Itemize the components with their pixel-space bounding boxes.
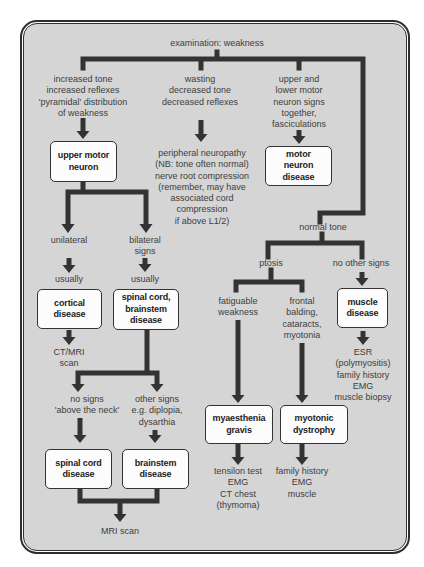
box-brainstem-disease: brainstem disease	[122, 449, 189, 489]
connector-ptosis-split	[236, 270, 302, 290]
arrow-icon	[72, 384, 85, 392]
arrow-icon	[139, 258, 152, 272]
unilateral-label: unilateral	[29, 235, 109, 246]
connector-normal-tone-split	[268, 234, 362, 257]
arrow-icon	[62, 224, 75, 233]
box-upper-motor-neuron: upper motor neuron	[50, 141, 117, 182]
normal-tone-label: normal tone	[273, 222, 373, 233]
box-myaesthenia-gravis: myaesthenia gravis	[205, 405, 273, 444]
arrow-icon	[232, 320, 245, 403]
lower-motor-outcome: peripheral neuropathy (NB: tone often no…	[137, 148, 267, 227]
bilateral-qualifier: usually	[110, 274, 180, 285]
arrow-icon	[149, 430, 162, 443]
lower-motor-criteria: wasting decreased tone decreased reflexe…	[140, 74, 260, 108]
muscle-disease-investigation: ESR (polymyositis) family history EMG mu…	[318, 347, 408, 403]
box-cortical-disease: cortical disease	[37, 289, 102, 329]
no-other-signs-label: no other signs	[316, 258, 406, 269]
connector-umn-split	[68, 182, 146, 225]
arrow-icon	[74, 418, 87, 443]
cortical-investigation: CT/MRI scan	[34, 347, 104, 370]
ptosis-label: ptosis	[241, 258, 301, 269]
arrow-icon	[114, 514, 127, 522]
arrow-icon	[296, 343, 309, 403]
arrow-icon	[151, 384, 164, 392]
arrow-icon	[63, 330, 76, 345]
bilateral-label: bilateral signs	[105, 235, 185, 258]
arrow-icon	[356, 272, 369, 286]
connector-mri-merge	[80, 489, 157, 515]
arrow-icon	[293, 130, 306, 144]
unilateral-qualifier: usually	[34, 274, 104, 285]
myotonic-investigation: family history EMG muscle	[262, 466, 342, 500]
diagram-title: examination: weakness	[137, 38, 297, 49]
arrow-icon	[77, 118, 90, 139]
box-spinal-cord-brainstem-disease: spinal cord, brainstem disease	[113, 289, 179, 330]
box-motor-neuron-disease: motor neuron disease	[265, 146, 332, 186]
arrow-icon	[232, 444, 245, 465]
upper-motor-criteria: increased tone increased reflexes 'pyram…	[18, 74, 148, 119]
box-myotonic-dystrophy: myotonic dystrophy	[280, 405, 348, 444]
fatiguable-weakness-label: fatiguable weakness	[203, 296, 273, 319]
box-spinal-cord-disease: spinal cord disease	[45, 449, 112, 489]
mri-scan-label: MRI scan	[80, 526, 160, 537]
box-muscle-disease: muscle disease	[337, 288, 388, 328]
arrow-icon	[63, 258, 76, 273]
other-signs-label: other signs e.g. diplopia, dysarthia	[112, 394, 202, 428]
arrow-icon	[296, 444, 309, 465]
arrow-icon	[195, 120, 208, 142]
mixed-signs-criteria: upper and lower motor neuron signs toget…	[244, 74, 354, 130]
arrow-icon	[357, 331, 370, 345]
frontal-balding-label: frontal balding, cataracts, myotonia	[267, 296, 337, 341]
